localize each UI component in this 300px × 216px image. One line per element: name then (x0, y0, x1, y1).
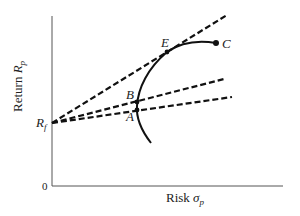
point-A-marker (135, 108, 140, 113)
y-axis-label: Return Rp (10, 60, 27, 112)
point-C-marker (213, 40, 219, 46)
label-A: A (125, 109, 134, 124)
label-B: B (126, 87, 134, 102)
label-C: C (222, 36, 231, 51)
frontier-curve (137, 42, 216, 143)
point-E-marker (165, 50, 170, 55)
risk-free-label: Rf (35, 115, 48, 132)
label-E: E (160, 35, 169, 50)
x-axis-label: Risk σp (166, 190, 205, 207)
point-B-marker (135, 100, 140, 105)
origin-label: 0 (42, 180, 48, 192)
cal-line-E (52, 15, 227, 123)
efficient-frontier-diagram: A B E C Rf 0 Risk σp Return Rp (0, 0, 300, 216)
